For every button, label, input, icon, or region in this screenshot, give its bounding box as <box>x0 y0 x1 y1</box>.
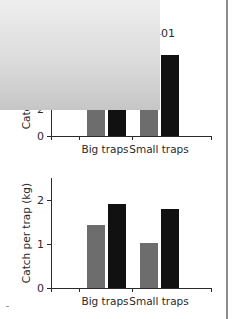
chart-2-bar-1995-96 <box>87 225 105 288</box>
chart-1-x-tick <box>51 136 52 140</box>
chart-1-x-tick <box>79 136 80 140</box>
scan-artifact <box>6 306 9 307</box>
chart-2-y-tick-label: 2 <box>32 195 44 206</box>
chart-2-x-tick <box>51 288 52 292</box>
chart-2-y-axis-cap <box>51 178 52 179</box>
chart-1-y-tick-label: 0 <box>32 131 44 142</box>
chart-1-x-label: Big traps <box>81 143 128 155</box>
chart-2-gridline <box>52 244 212 245</box>
chart-2-bar-1995-96 <box>140 243 158 288</box>
chart-2-y-axis <box>51 178 52 289</box>
chart-1-bar-2000-01 <box>161 55 179 136</box>
chart-2-x-label: Big traps <box>81 295 128 307</box>
chart-2-bar-2000-01 <box>161 209 179 288</box>
chart-2-y-tick <box>47 200 51 201</box>
chart-1-x-label: Small traps <box>129 143 189 155</box>
chart-2-x-tick <box>132 288 133 292</box>
chart-1-x-tick <box>132 136 133 140</box>
chart-2-y-tick-label: 0 <box>32 283 44 294</box>
chart-2-x-tick <box>211 288 212 292</box>
chart-1-x-tick <box>211 136 212 140</box>
page-border-rule <box>226 0 228 319</box>
chart-2-y-title: Catch per trap (kg) <box>20 183 32 283</box>
chart-2-y-tick-label: 1 <box>32 239 44 250</box>
chart-2-x-label: Small traps <box>129 295 189 307</box>
chart-2-x-tick <box>79 288 80 292</box>
chart-2-y-tick <box>47 244 51 245</box>
chart-2-bar-2000-01 <box>108 204 126 288</box>
chart-2-plot-area <box>0 0 160 110</box>
chart-2-gridline <box>52 200 212 201</box>
